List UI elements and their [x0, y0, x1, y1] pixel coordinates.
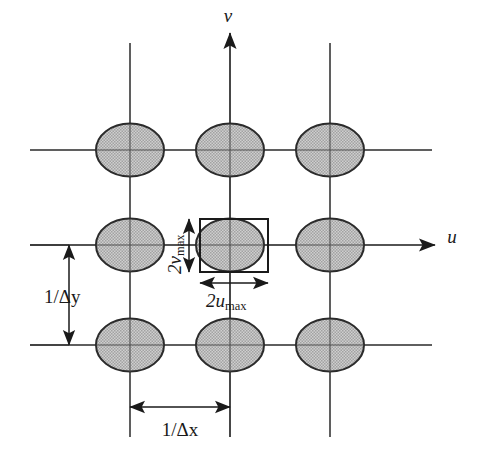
label-two-u-max-sub: max	[225, 299, 247, 313]
u-axis-label: u	[447, 226, 457, 247]
figure-container: v u 2umax 2vmax 1/Δy 1/Δx	[0, 0, 479, 460]
replicated-spectra-diagram: v u 2umax 2vmax 1/Δy 1/Δx	[0, 0, 479, 460]
label-inv-delta-y: 1/Δy	[44, 286, 81, 307]
label-two-v-max-main: 2v	[164, 256, 185, 275]
label-two-v-max-sub: max	[173, 234, 187, 256]
label-two-u-max-main: 2u	[206, 290, 225, 311]
label-inv-delta-x: 1/Δx	[162, 419, 199, 440]
v-axis-label: v	[224, 5, 233, 26]
